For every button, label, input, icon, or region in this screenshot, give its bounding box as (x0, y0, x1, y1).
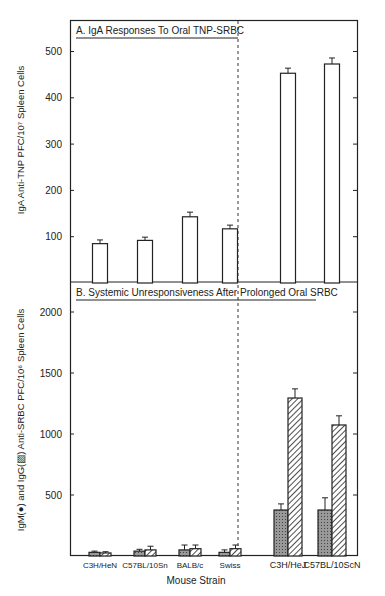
y-ticks-a: 100200300400500 (45, 46, 358, 242)
x-axis-label: Mouse Strain (167, 575, 226, 586)
bar-igm (134, 551, 145, 556)
x-tick-label: Swiss (220, 561, 241, 570)
panel-b-title: B. Systemic Unresponsiveness After Prolo… (76, 287, 338, 298)
y-tick-label: 1500 (40, 368, 63, 379)
bar (138, 240, 153, 283)
bar-igg (190, 549, 201, 556)
y-ticks-b: 500100015002000 (40, 307, 358, 501)
bar-igm (179, 550, 190, 556)
bar-igm (274, 510, 288, 556)
bar-igg (332, 425, 346, 556)
panel-a-title: A. IgA Responses To Oral TNP-SRBC (76, 25, 244, 36)
x-tick-label: C3H/HeJ (270, 560, 307, 570)
x-tick-label: C3H/HeN (83, 561, 117, 570)
bar-igg (288, 398, 302, 556)
x-tick-label: BALB/c (177, 561, 204, 570)
x-tick-label: C57BL/10Sn (122, 561, 167, 570)
y-tick-label: 2000 (40, 307, 63, 318)
bars-panel-b (89, 389, 346, 556)
y-axis-label-a: IgA Anti-TNP PFC/10⁷ Spleen Cells (15, 66, 26, 215)
y-tick-label: 300 (45, 139, 62, 150)
x-tick-label: C57BL/10ScN (303, 560, 360, 570)
bar-igm (219, 552, 230, 556)
y-tick-label: 200 (45, 185, 62, 196)
bar-igm (318, 510, 332, 556)
bars-panel-a (93, 58, 340, 283)
bar (93, 244, 108, 283)
y-axis-label-b: IgM(●) and IgG(▨) Anti-SRBC PFC/10⁶ Sple… (15, 309, 26, 532)
bar (281, 73, 296, 283)
bar (325, 64, 340, 283)
y-tick-label: 400 (45, 92, 62, 103)
bar-igg (230, 549, 241, 556)
bar (183, 217, 198, 283)
y-tick-label: 500 (45, 490, 62, 501)
bar-igg (145, 550, 156, 556)
y-tick-label: 500 (45, 46, 62, 57)
bar-igg (100, 553, 111, 556)
figure: A. IgA Responses To Oral TNP-SRBC B. Sys… (0, 0, 385, 596)
y-tick-label: 1000 (40, 429, 63, 440)
bar (223, 229, 238, 283)
x-tick-labels: C3H/HeNC57BL/10SnBALB/cSwissC3H/HeJC57BL… (83, 560, 361, 570)
y-tick-label: 100 (45, 231, 62, 242)
bar-igm (89, 552, 100, 556)
